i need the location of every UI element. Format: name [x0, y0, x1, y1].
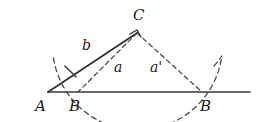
side-label-a: a: [114, 60, 122, 74]
vertex-label-a: A: [35, 99, 46, 114]
vertex-label-c: C: [133, 8, 144, 23]
geometry-figure: A B B C b a a': [0, 0, 264, 122]
side-a-prime-dashed-segment: [137, 33, 202, 92]
vertex-label-b-right: B: [200, 99, 211, 114]
side-label-a-prime: a': [150, 60, 162, 74]
side-label-b: b: [82, 38, 91, 52]
vertex-label-b-left: B: [69, 99, 80, 114]
